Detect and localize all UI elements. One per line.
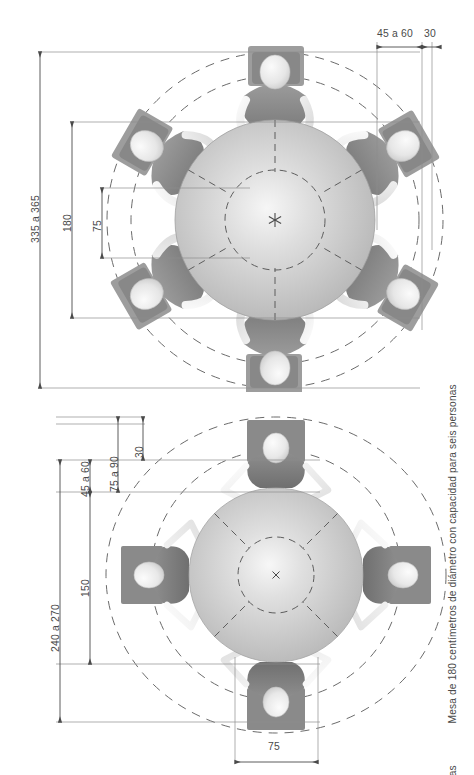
person-head [260, 55, 290, 89]
person-head [388, 562, 418, 588]
figure-table-150: 240 a 270 150 45 a 60 75 a 90 30 75 Mesa… [0, 392, 474, 775]
person-head [263, 433, 289, 463]
figure-top-drawing [0, 0, 474, 392]
dim-label-75a90: 75 a 90 [110, 456, 120, 492]
person-head [263, 687, 289, 717]
dim-label-overall-top: 335 a 365 [31, 195, 41, 243]
caption-table-150: Mesa de 150 centímetros de diámetro con … [448, 765, 458, 775]
dim-label-overall-bottom: 240 a 270 [51, 604, 61, 652]
dim-label-180: 180 [63, 214, 73, 232]
dim-label-30-bottom: 30 [135, 446, 145, 458]
dim-label-45a60-top: 45 a 60 [377, 29, 413, 39]
dim-label-75: 75 [93, 220, 103, 232]
dim-label-150: 150 [81, 579, 91, 597]
figure-bottom-drawing [0, 392, 474, 775]
dim-label-45a60-bottom: 45 a 60 [81, 461, 91, 497]
dim-label-seat-width: 75 [268, 742, 280, 752]
person-head [134, 562, 164, 588]
figure-table-180: 335 a 365 180 75 45 a 60 30 Mesa de 180 … [0, 0, 474, 392]
diagram-page: 335 a 365 180 75 45 a 60 30 Mesa de 180 … [0, 0, 474, 775]
dim-label-30-top: 30 [424, 29, 436, 39]
person-head [260, 351, 290, 385]
